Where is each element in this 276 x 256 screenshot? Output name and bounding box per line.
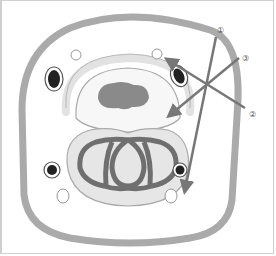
left-lower-body [44,162,60,178]
label-2: ② [249,110,256,119]
right-lower-body [173,163,187,177]
label-3: ③ [242,54,249,63]
small-circle-right-top [152,49,162,59]
small-circle-right-bottom [165,189,177,203]
small-circle-left-bottom [57,189,69,203]
cell-diagram: ① ③ ② [0,0,276,256]
nucleus-blob [98,82,149,109]
left-upper-body [45,67,63,91]
small-circle-left-top [71,50,81,60]
label-1: ① [217,26,224,35]
